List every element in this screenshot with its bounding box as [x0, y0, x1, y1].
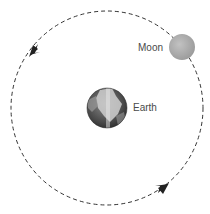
orbit-diagram	[0, 0, 210, 214]
orbit-arrow-icon	[155, 183, 169, 194]
moon-icon	[169, 34, 195, 60]
earth-icon	[87, 88, 127, 128]
earth-label: Earth	[133, 102, 157, 114]
moon-label: Moon	[138, 42, 163, 54]
orbit-arrow-icon	[29, 44, 40, 57]
